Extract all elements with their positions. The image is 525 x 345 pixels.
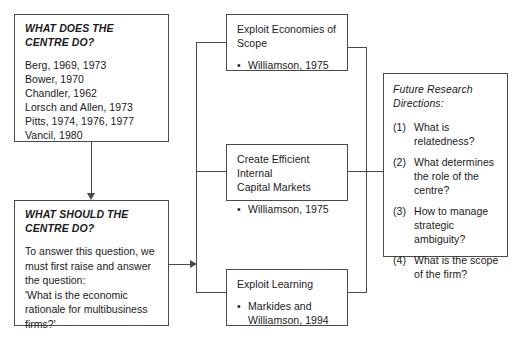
list-item-label: What is the scope of the firm? [414, 253, 498, 281]
connector-middle-trunk [196, 42, 197, 293]
list-item-label: Williamson, 1975 [248, 202, 329, 216]
list-item-number: (3) [393, 204, 414, 246]
list-item: • Williamson, 1975 [237, 202, 338, 216]
list-item: (1) What is relatedness? [393, 120, 499, 148]
list-item: • Williamson, 1975 [237, 58, 338, 72]
exploit-economies-of-scope-title: Exploit Economies of Scope [237, 22, 338, 50]
arrowhead-to-what-should-centre-do [87, 193, 95, 200]
connector-right-trunk-to-future-research [366, 171, 383, 172]
list-item-label: How to manage strategic ambiguity? [414, 204, 488, 246]
future-research-directions-heading: Future Research Directions: [393, 83, 499, 110]
list-item: (3) How to manage strategic ambiguity? [393, 204, 499, 246]
connector-scope-to-right-trunk [347, 47, 367, 48]
connector-left-to-trunk [168, 264, 192, 265]
box-exploit-economies-of-scope: Exploit Economies of Scope • Williamson,… [226, 14, 348, 71]
list-item-number: (4) [393, 253, 414, 281]
connector-right-trunk [366, 47, 367, 293]
arrowhead-to-middle-trunk [190, 260, 197, 268]
box-what-should-the-centre-do: WHAT SHOULD THE CENTRE DO? To answer thi… [14, 200, 169, 326]
connector-trunk-to-scope [196, 42, 227, 43]
list-item-number: (2) [393, 155, 414, 197]
what-does-centre-do-references: Berg, 1969, 1973 Bower, 1970 Chandler, 1… [25, 58, 159, 142]
what-does-centre-do-heading: WHAT DOES THE CENTRE DO? [25, 22, 159, 49]
exploit-learning-title: Exploit Learning [237, 277, 338, 291]
bullet-icon: • [237, 58, 248, 72]
list-item-label: Williamson, 1975 [248, 58, 329, 72]
bullet-icon: • [237, 299, 248, 327]
list-item: (2) What determines the role of the cent… [393, 155, 499, 197]
list-item-label: What determines the role of the centre? [414, 155, 494, 197]
list-item: • Markides and Williamson, 1994 [237, 299, 338, 327]
what-should-centre-do-body: To answer this question, we must first r… [25, 244, 159, 331]
connector-capital-markets-to-right-trunk [347, 171, 367, 172]
box-what-does-the-centre-do: WHAT DOES THE CENTRE DO? Berg, 1969, 197… [14, 14, 169, 142]
connector-trunk-to-learning [196, 292, 227, 293]
box-exploit-learning: Exploit Learning • Markides and Williams… [226, 269, 348, 326]
box-create-efficient-internal-capital-markets: Create Efficient Internal Capital Market… [226, 144, 348, 201]
connector-trunk-to-capital-markets [196, 171, 227, 172]
list-item: (4) What is the scope of the firm? [393, 253, 499, 281]
box-future-research-directions: Future Research Directions: (1) What is … [383, 73, 508, 257]
connector-left-vertical [91, 142, 92, 194]
diagram-canvas: WHAT DOES THE CENTRE DO? Berg, 1969, 197… [0, 0, 525, 345]
create-efficient-internal-capital-markets-title: Create Efficient Internal Capital Market… [237, 152, 338, 194]
list-item-label: What is relatedness? [414, 120, 475, 148]
list-item-label: Markides and Williamson, 1994 [248, 299, 329, 327]
connector-learning-to-right-trunk [347, 292, 367, 293]
what-should-centre-do-heading: WHAT SHOULD THE CENTRE DO? [25, 208, 159, 235]
list-item-number: (1) [393, 120, 414, 148]
bullet-icon: • [237, 202, 248, 216]
